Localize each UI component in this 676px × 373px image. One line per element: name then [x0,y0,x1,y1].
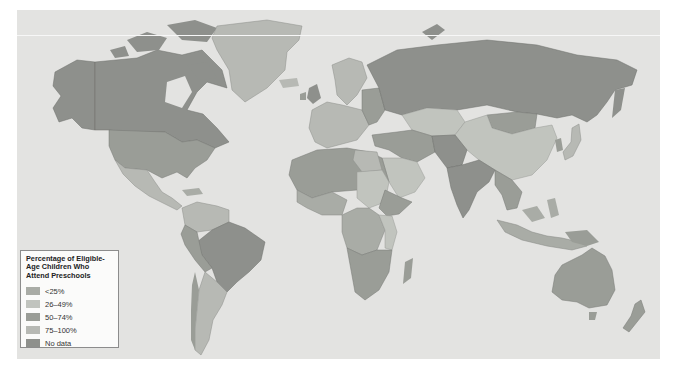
legend-label: No data [45,339,71,348]
region-turkey-iran [372,130,435,162]
legend-label: 26–49% [45,300,73,309]
legend-swatch [26,326,40,334]
region-australia [552,248,615,308]
legend-item-lt25: <25% [26,285,113,298]
legend-item-no-data: No data [26,337,113,350]
scan-line-artifact [17,35,660,36]
legend-swatch [26,287,40,295]
region-india [447,160,495,218]
legend-item-75-100: 75–100% [26,324,113,337]
legend-label: <25% [45,287,64,296]
region-southern-africa [347,248,392,300]
legend-label: 50–74% [45,313,73,322]
region-new-zealand [623,300,645,332]
legend-swatch [26,313,40,321]
legend-title: Percentage of Eligible-Age Children Who … [26,255,113,280]
legend-swatch [26,300,40,308]
legend-label: 75–100% [45,326,77,335]
legend-swatch [26,339,40,347]
legend-item-26-49: 26–49% [26,298,113,311]
region-western-europe [309,102,369,148]
map-legend: Percentage of Eligible-Age Children Who … [20,250,119,348]
legend-item-50-74: 50–74% [26,311,113,324]
region-greenland [212,20,302,102]
region-central-africa [342,208,385,255]
region-russia [367,40,637,122]
region-japan [563,124,581,160]
region-alaska [53,60,95,130]
